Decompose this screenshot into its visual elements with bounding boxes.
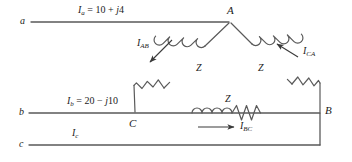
Ia-value: 10 + j4 (95, 4, 123, 15)
node-label-C: C (129, 118, 136, 129)
impedance-label-Z-AC: Z (196, 63, 202, 73)
IBC-subscript: BC (243, 125, 252, 133)
Ib-subscript: b (70, 100, 74, 108)
terminal-label-a: a (20, 16, 25, 26)
Ia-subscript: a (81, 9, 85, 17)
branch-AB (231, 23, 320, 112)
ICA-subscript: CA (306, 50, 315, 58)
current-arrow-ICA (277, 44, 298, 57)
node-label-A: A (227, 5, 234, 16)
IAB-subscript: AB (140, 42, 149, 50)
Ib-value: 20 − j10 (84, 95, 117, 106)
terminal-label-b: b (19, 107, 24, 117)
impedance-label-Z-AB: Z (258, 63, 264, 73)
branch-AC (134, 23, 229, 112)
circuit-diagram-figure: a b c A B C Ia = 10 + j4 Ib = 20 − j10 I… (0, 0, 352, 162)
line-current-label-Ia: Ia = 10 + j4 (78, 5, 124, 17)
line-current-label-Ic: Ic (72, 128, 78, 140)
Ic-subscript: c (75, 132, 78, 140)
circuit-schematic-svg (0, 0, 352, 162)
phase-current-label-IBC: IBC (240, 121, 252, 133)
Ia-equals: = (87, 4, 93, 15)
phase-current-label-ICA: ICA (303, 46, 315, 58)
terminal-label-c: c (19, 139, 23, 149)
impedance-label-Z-CB: Z (225, 94, 231, 104)
Ib-equals: = (76, 95, 82, 106)
line-current-label-Ib: Ib = 20 − j10 (67, 96, 118, 108)
current-arrow-IAB (150, 40, 172, 62)
phase-current-label-IAB: IAB (137, 38, 149, 50)
node-label-B: B (325, 105, 332, 116)
